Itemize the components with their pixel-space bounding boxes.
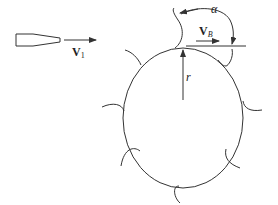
bucket <box>125 50 141 65</box>
turbine-diagram: V1 r VB α <box>0 0 278 205</box>
bucket-velocity-label: VB <box>199 24 213 39</box>
radius-label: r <box>186 70 191 84</box>
bucket <box>102 104 124 111</box>
angle-arc-start-arrow <box>180 9 198 13</box>
nozzle <box>16 34 60 46</box>
bucket <box>175 186 180 203</box>
bucket <box>243 101 262 111</box>
jet-velocity-label: V1 <box>72 45 85 60</box>
bucket-top <box>173 8 182 48</box>
angle-label: α <box>211 2 218 16</box>
